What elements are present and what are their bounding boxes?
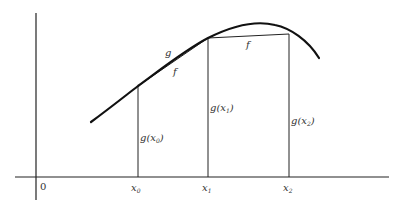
tick-x2: x2 [283,182,293,194]
origin-label: 0 [40,181,46,192]
chord-f-1-2 [208,34,289,38]
ordinate-label-g-x0: g(x0) [140,132,164,144]
curve-g [91,23,319,122]
curve-label-g: g [165,47,171,58]
interpolation-diagram: g f f 0 x0 x1 x2 g(x0) g(x1) g(x2) [0,0,396,206]
ordinate-label-g-x2: g(x2) [291,115,315,127]
ordinate-label-g-x1: g(x1) [210,102,234,114]
chord-label-f-0: f [172,66,179,77]
tick-x1: x1 [202,182,211,194]
tick-x0: x0 [131,182,141,194]
chord-label-f-1: f [245,39,252,50]
